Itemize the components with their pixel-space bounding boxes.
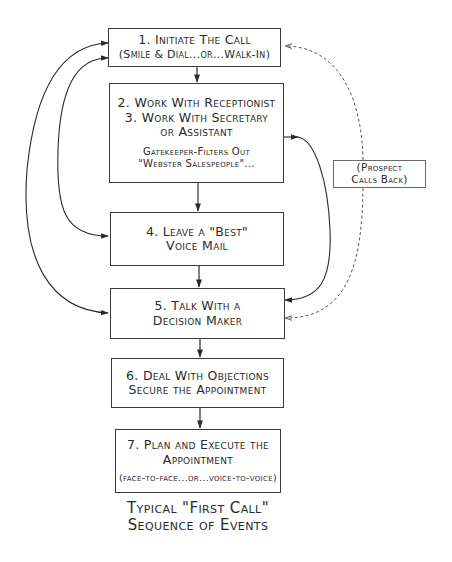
step-5-label: 5. Talk With a — [154, 299, 240, 313]
step-4-label: 4. Leave a "Best" — [146, 225, 248, 239]
step-7-label-cont: Appointment — [163, 453, 233, 467]
loop-arrow-5-to-1 — [26, 43, 108, 313]
left-loop-arrows — [26, 43, 108, 313]
gatekeeper-note: Gatekeeper-Filters Out "Webster Salespeo… — [138, 146, 255, 170]
step-7-label: 7. Plan and Execute the — [127, 438, 269, 452]
step-4-label-cont: Voice Mail — [166, 239, 228, 253]
step-6-label: 6. Deal With Objections — [126, 369, 269, 383]
step-5-decision-maker-box: 5. Talk With a Decision Maker — [110, 288, 285, 339]
right-solid-arrow — [284, 137, 330, 300]
step-3-label-cont: or Assistant — [160, 125, 232, 139]
caption-line-1: Typical "First Call" — [115, 500, 281, 517]
loop-arrow-4-to-1 — [58, 58, 108, 236]
gatekeeper-note-line-1: Gatekeeper-Filters Out — [138, 146, 255, 158]
step-1-initiate-call-box: 1. Initiate The Call (Smile & Dial...or.… — [108, 28, 281, 67]
callback-line-2: Calls Back) — [351, 174, 407, 186]
step-1-label: 1. Initiate The Call — [138, 33, 251, 47]
first-call-flowchart: 1. Initiate The Call (Smile & Dial...or.… — [0, 0, 452, 562]
caption-line-2: Sequence of Events — [115, 517, 281, 534]
dashed-arrow-to-box-5 — [286, 188, 363, 318]
step-6-objections-box: 6. Deal With Objections Secure the Appoi… — [111, 358, 284, 408]
step-5-label-cont: Decision Maker — [153, 314, 242, 328]
curve-box-2-to-box-5 — [285, 137, 330, 300]
diagram-caption: Typical "First Call" Sequence of Events — [115, 500, 281, 533]
step-6-label-cont: Secure the Appointment — [129, 383, 267, 397]
step-3-label: 3. Work With Secretary — [125, 111, 268, 125]
step-4-voice-mail-box: 4. Leave a "Best" Voice Mail — [110, 212, 284, 266]
step-2-3-gatekeeper-box: 2. Work With Receptionist 3. Work With S… — [109, 83, 284, 183]
step-2-label: 2. Work With Receptionist — [118, 96, 276, 110]
prospect-calls-back-box: (Prospect Calls Back) — [333, 160, 426, 188]
step-7-subtitle: (face-to-face...or...voice-to-voice) — [119, 473, 277, 484]
dashed-arrow-to-box-1 — [286, 46, 363, 160]
step-7-appointment-box: 7. Plan and Execute the Appointment (fac… — [115, 429, 281, 493]
step-1-subtitle: (Smile & Dial...or...Walk-In) — [119, 49, 270, 62]
gatekeeper-note-line-2: "Webster Salespeople"... — [138, 158, 255, 170]
